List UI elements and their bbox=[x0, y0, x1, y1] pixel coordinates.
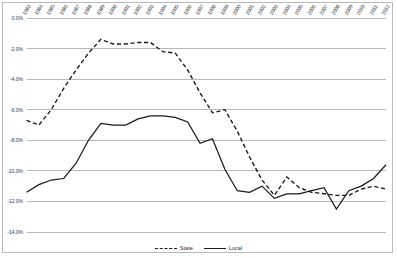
legend-label: Local bbox=[229, 245, 242, 251]
y-tick-label: -8.0% bbox=[2, 137, 23, 143]
chart-frame bbox=[2, 2, 393, 253]
y-tick-label: -6.0% bbox=[2, 107, 23, 113]
chart-screenshot: 0.0%-2.0%-4.0%-6.0%-8.0%-10.0%-12.0%-14.… bbox=[0, 0, 397, 258]
legend-entry-state: State bbox=[155, 245, 193, 251]
y-tick-label: 0.0% bbox=[2, 15, 23, 21]
y-tick-label: -2.0% bbox=[2, 46, 23, 52]
legend-label: State bbox=[180, 245, 193, 251]
y-tick-label: -12.0% bbox=[2, 198, 23, 204]
legend-swatch-local bbox=[204, 248, 226, 249]
y-tick-label: -14.0% bbox=[2, 229, 23, 235]
y-tick-label: -4.0% bbox=[2, 76, 23, 82]
y-tick-label: -10.0% bbox=[2, 168, 23, 174]
chart-legend: StateLocal bbox=[0, 245, 397, 251]
legend-swatch-state bbox=[155, 248, 177, 249]
legend-entry-local: Local bbox=[204, 245, 242, 251]
